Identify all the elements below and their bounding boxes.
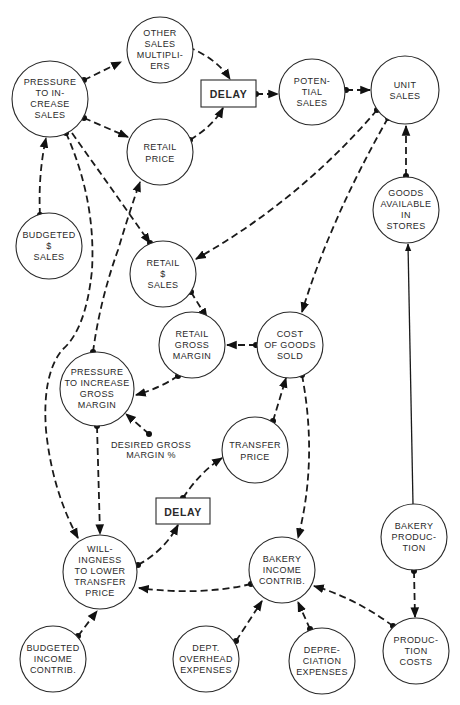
link-origin-dot (146, 431, 152, 437)
svg-text:SOLD: SOLD (277, 351, 303, 361)
link-production-costs-to-bakery-income (314, 586, 393, 626)
node-bakery-income-contrib: BAKERY INCOME CONTRIB. (249, 537, 315, 603)
svg-text:PRODUC-: PRODUC- (394, 635, 439, 645)
svg-text:MARGIN: MARGIN (78, 400, 116, 410)
node-willingness-lower-transfer-price: WILL- INGNESS TO LOWER TRANSFER PRICE (63, 535, 137, 609)
svg-text:BUDGETED: BUDGETED (22, 230, 75, 240)
causal-diagram: OTHER SALES MULTIPLI- ERS PRESSURE TO IN… (0, 0, 460, 705)
svg-text:TION: TION (404, 646, 427, 656)
svg-text:CONTRIB.: CONTRIB. (30, 665, 76, 675)
link-willingness-to-delay (138, 525, 178, 565)
svg-text:ERS: ERS (150, 61, 170, 71)
svg-text:MULTIPLI-: MULTIPLI- (137, 50, 183, 60)
svg-text:CIATION: CIATION (303, 656, 342, 666)
svg-text:AVAILABLE: AVAILABLE (381, 199, 432, 209)
link-bakery-production-to-production-costs (414, 571, 415, 617)
svg-text:OTHER: OTHER (143, 28, 177, 38)
link-pressure-sales-to-retail-price (84, 118, 128, 137)
node-goods-available-in-stores: GOODS AVAILABLE IN STORES (373, 177, 439, 243)
svg-text:BUDGETED: BUDGETED (26, 643, 79, 653)
svg-text:TRANSFER: TRANSFER (74, 577, 126, 587)
svg-text:POTEN-: POTEN- (294, 76, 330, 86)
node-budgeted-income-contrib: BUDGETED INCOME CONTRIB. (20, 626, 86, 692)
link-cogs-to-bakery-income (298, 375, 309, 538)
svg-text:SALES: SALES (389, 91, 420, 101)
node-pressure-increase-gross-margin: PRESSURE TO INCREASE GROSS MARGIN (60, 352, 134, 426)
svg-text:DESIRED GROSS: DESIRED GROSS (111, 440, 191, 450)
svg-text:INCOME: INCOME (34, 654, 72, 664)
node-retail-sales: RETAIL $ SALES (130, 241, 196, 307)
link-bakery-income-to-willingness (139, 584, 251, 591)
svg-text:INGNESS: INGNESS (78, 555, 121, 565)
link-other-multipliers-to-delay (188, 47, 230, 79)
svg-text:RETAIL: RETAIL (146, 258, 179, 268)
svg-text:DEPRE-: DEPRE- (304, 645, 340, 655)
svg-text:TO IN-: TO IN- (35, 88, 64, 98)
svg-text:$: $ (46, 241, 51, 251)
link-desired-gm-to-pressure-gm (126, 414, 149, 434)
svg-text:PRICE: PRICE (240, 452, 270, 462)
node-retail-price: RETAIL PRICE (127, 119, 193, 185)
svg-text:SALES: SALES (147, 280, 178, 290)
svg-text:PRICE: PRICE (145, 154, 175, 164)
svg-text:MARGIN %: MARGIN % (126, 450, 176, 460)
svg-text:GROSS: GROSS (80, 389, 115, 399)
svg-text:EXPENSES: EXPENSES (296, 667, 348, 677)
svg-text:BAKERY: BAKERY (395, 521, 434, 531)
svg-text:OF GOODS: OF GOODS (264, 340, 316, 350)
link-depreciation-to-bakery-income (298, 602, 310, 629)
node-depreciation-expenses: DEPRE- CIATION EXPENSES (289, 628, 355, 694)
svg-text:IN: IN (401, 210, 411, 220)
svg-text:PRICE: PRICE (85, 588, 115, 598)
svg-text:EXPENSES: EXPENSES (180, 665, 232, 675)
link-bakery-production-to-goods-available (408, 244, 413, 504)
node-pressure-increase-sales: PRESSURE TO IN- CREASE SALES (12, 61, 88, 137)
svg-text:PRESSURE: PRESSURE (71, 367, 124, 377)
svg-text:SALES: SALES (296, 98, 327, 108)
svg-text:WILL-: WILL- (87, 544, 113, 554)
delay-box-bottom: DELAY (156, 498, 210, 524)
svg-text:STORES: STORES (386, 221, 425, 231)
svg-text:COST: COST (277, 329, 304, 339)
label-desired-gross-margin: DESIRED GROSS MARGIN % (111, 440, 191, 460)
svg-text:PRODUC-: PRODUC- (392, 532, 437, 542)
svg-text:TIAL: TIAL (302, 87, 323, 97)
node-budgeted-sales: BUDGETED $ SALES (16, 213, 82, 279)
delay-box-top: DELAY (201, 80, 256, 107)
svg-text:RETAIL: RETAIL (143, 142, 176, 152)
svg-text:MARGIN: MARGIN (173, 351, 211, 361)
svg-text:RETAIL: RETAIL (175, 329, 208, 339)
svg-text:UNIT: UNIT (394, 80, 417, 90)
node-cost-of-goods-sold: COST OF GOODS SOLD (257, 312, 323, 378)
link-unit-sales-to-retail-sales (196, 110, 377, 259)
svg-text:PRESSURE: PRESSURE (24, 77, 77, 87)
link-budgeted-income-to-willingness (78, 611, 97, 636)
svg-text:COSTS: COSTS (399, 657, 432, 667)
svg-text:$: $ (160, 269, 165, 279)
link-pressure-sales-to-other-multipliers (84, 62, 121, 80)
link-transfer-price-to-cogs (273, 378, 286, 421)
svg-text:DELAY: DELAY (210, 88, 248, 100)
link-gross-margin-to-pressure-gm (136, 376, 178, 395)
node-retail-gross-margin: RETAIL GROSS MARGIN (159, 312, 225, 378)
link-budgeted-sales-to-pressure (40, 138, 46, 215)
svg-text:OVERHEAD: OVERHEAD (179, 654, 233, 664)
svg-text:SALES: SALES (33, 252, 64, 262)
node-other-sales-multipliers: OTHER SALES MULTIPLI- ERS (127, 17, 193, 83)
svg-text:INCOME: INCOME (263, 565, 301, 575)
svg-text:CREASE: CREASE (30, 99, 69, 109)
svg-text:DELAY: DELAY (164, 506, 202, 518)
svg-text:SALES: SALES (144, 39, 175, 49)
link-retail-price-to-delay (190, 108, 223, 140)
svg-text:BAKERY: BAKERY (263, 554, 302, 564)
node-dept-overhead-expenses: DEPT. OVERHEAD EXPENSES (173, 626, 239, 692)
svg-text:TO LOWER: TO LOWER (74, 566, 125, 576)
link-pressure-sales-to-willingness (45, 133, 92, 538)
node-potential-sales: POTEN- TIAL SALES (279, 59, 345, 125)
svg-text:TION: TION (402, 543, 425, 553)
node-production-costs: PRODUC- TION COSTS (383, 618, 449, 684)
svg-text:SALES: SALES (34, 110, 65, 120)
svg-text:TRANSFER: TRANSFER (229, 440, 281, 450)
svg-text:GOODS: GOODS (388, 188, 424, 198)
svg-text:TO INCREASE: TO INCREASE (64, 378, 129, 388)
